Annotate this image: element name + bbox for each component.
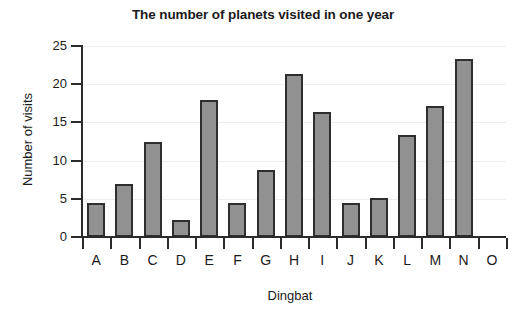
bar-chart: The number of planets visited in one yea…	[0, 0, 526, 317]
bar-l	[398, 135, 416, 237]
x-axis-tick-label-f: F	[222, 252, 252, 268]
x-axis-tick	[82, 238, 84, 249]
y-axis-tick	[71, 160, 82, 162]
x-axis-tick-label-l: L	[392, 252, 422, 268]
bar-i	[313, 112, 331, 237]
bar-j	[342, 203, 360, 237]
x-axis-tick	[223, 238, 225, 249]
x-axis-tick-label-m: M	[420, 252, 450, 268]
x-axis-tick-label-n: N	[449, 252, 479, 268]
x-axis-tick-label-a: A	[81, 252, 111, 268]
x-axis-tick	[478, 238, 480, 249]
bar-c	[144, 142, 162, 238]
y-axis-tick-label: 10	[21, 154, 67, 167]
x-axis-tick	[195, 238, 197, 249]
x-axis-tick	[365, 238, 367, 249]
x-axis-tick	[167, 238, 169, 249]
y-axis-tick-label: 20	[21, 77, 67, 90]
y-axis-tick	[71, 121, 82, 123]
y-axis-tick-label: 5	[21, 192, 67, 205]
y-axis-tick	[71, 236, 82, 238]
x-axis-tick-label-j: J	[336, 252, 366, 268]
x-axis-tick	[308, 238, 310, 249]
plot-area	[82, 46, 506, 237]
y-axis-tick	[71, 198, 82, 200]
bar-k	[370, 198, 388, 237]
x-axis-tick-label-e: E	[194, 252, 224, 268]
y-axis-tick-labels: 0510152025	[16, 0, 67, 317]
chart-title: The number of planets visited in one yea…	[0, 7, 526, 22]
bar-m	[426, 106, 444, 237]
x-axis-tick-label-i: I	[307, 252, 337, 268]
bar-n	[455, 59, 473, 237]
y-axis-tick-label: 0	[21, 230, 67, 243]
x-axis-tick	[252, 238, 254, 249]
x-axis-tick-label-c: C	[138, 252, 168, 268]
bar-g	[257, 170, 275, 237]
x-axis-tick	[336, 238, 338, 249]
x-axis-label: Dingbat	[75, 288, 505, 303]
gridline	[82, 46, 506, 47]
x-axis-tick	[506, 238, 508, 249]
y-axis-line	[81, 45, 83, 238]
y-axis-tick	[71, 45, 82, 47]
x-axis-tick	[110, 238, 112, 249]
gridlines-and-bars	[82, 46, 506, 237]
x-axis-tick	[139, 238, 141, 249]
bar-d	[172, 220, 190, 237]
bar-f	[228, 203, 246, 237]
x-axis-tick	[393, 238, 395, 249]
x-axis-tick-label-o: O	[477, 252, 507, 268]
y-axis-tick-label: 25	[21, 39, 67, 52]
bar-e	[200, 100, 218, 237]
x-axis-tick-label-k: K	[364, 252, 394, 268]
y-axis-tick	[71, 83, 82, 85]
x-axis-tick-label-d: D	[166, 252, 196, 268]
bar-h	[285, 74, 303, 237]
x-axis-tick-label-b: B	[109, 252, 139, 268]
bar-b	[115, 184, 133, 237]
bar-a	[87, 203, 105, 237]
x-axis-tick	[449, 238, 451, 249]
x-axis-tick	[280, 238, 282, 249]
x-axis-tick	[421, 238, 423, 249]
x-axis-line	[81, 236, 506, 238]
x-axis-tick-label-g: G	[251, 252, 281, 268]
x-axis-tick-label-h: H	[279, 252, 309, 268]
y-axis-tick-label: 15	[21, 115, 67, 128]
